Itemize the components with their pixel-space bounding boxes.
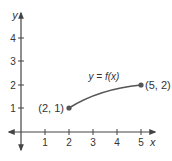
- start-point-label: (2, 1): [38, 102, 64, 114]
- y-tick-label: 1: [10, 103, 16, 114]
- x-tick-label: 3: [90, 137, 96, 148]
- x-tick-label: 1: [42, 137, 48, 148]
- y-tick-label: 3: [10, 56, 16, 67]
- y-axis-label: y: [11, 9, 19, 21]
- y-tick-label: 2: [10, 80, 16, 91]
- x-tick-label: 5: [138, 137, 144, 148]
- function-label: y = f(x): [88, 71, 120, 82]
- start-point: [66, 105, 71, 110]
- y-tick-label: 4: [10, 33, 16, 44]
- function-graph: 1 2 3 4 5 x 1 2 3 4 y y = f(x) (2, 1) (5…: [0, 0, 172, 161]
- x-tick-label: 4: [114, 137, 120, 148]
- x-tick-label: 2: [66, 137, 72, 148]
- function-curve: [69, 85, 141, 108]
- x-axis-label: x: [149, 136, 156, 148]
- end-point: [138, 82, 143, 87]
- end-point-label: (5, 2): [145, 79, 171, 91]
